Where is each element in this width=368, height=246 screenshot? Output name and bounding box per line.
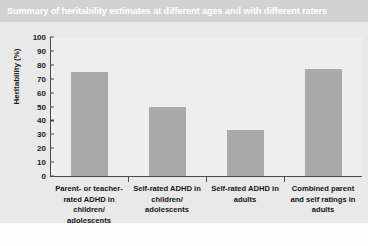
x-axis-category-label: Self-rated ADHD in children/ adolescents xyxy=(128,184,206,234)
bar xyxy=(305,69,342,176)
y-axis-tick-label: 0 xyxy=(42,172,46,181)
page-title: Summary of heritability estimates at dif… xyxy=(0,6,327,16)
y-axis-tick-label: 60 xyxy=(37,88,46,97)
y-axis-tick-label: 90 xyxy=(37,46,46,55)
x-axis-category-labels: Parent- or teacher- rated ADHD in childr… xyxy=(50,184,362,234)
figure: Summary of heritability estimates at dif… xyxy=(0,0,368,246)
bar xyxy=(227,130,264,176)
y-axis-tick-label: 100 xyxy=(33,33,46,42)
y-axis-tick-label: 50 xyxy=(37,102,46,111)
bar xyxy=(71,72,108,176)
x-axis-category-label: Parent- or teacher- rated ADHD in childr… xyxy=(50,184,128,234)
x-axis-separator xyxy=(206,177,207,182)
chart-panel: Heritability (%) 0102030405060708090100 … xyxy=(0,22,368,223)
y-axis-tick-label: 20 xyxy=(37,144,46,153)
chart-title-band: Summary of heritability estimates at dif… xyxy=(0,0,368,22)
x-axis-category-label: Combined parent and self ratings in adul… xyxy=(284,184,362,234)
x-axis-category-label: Self-rated ADHD in adults xyxy=(206,184,284,234)
y-axis-line xyxy=(50,37,51,177)
y-axis-tick-label: 80 xyxy=(37,60,46,69)
y-axis-tick-label: 10 xyxy=(37,158,46,167)
x-axis-separator xyxy=(284,177,285,182)
y-axis-tick-label: 40 xyxy=(37,116,46,125)
bar xyxy=(149,107,186,177)
x-axis-separator xyxy=(128,177,129,182)
y-axis-tick-labels: 0102030405060708090100 xyxy=(20,22,46,223)
y-axis-tick-label: 30 xyxy=(37,130,46,139)
y-axis-tick-label: 70 xyxy=(37,74,46,83)
